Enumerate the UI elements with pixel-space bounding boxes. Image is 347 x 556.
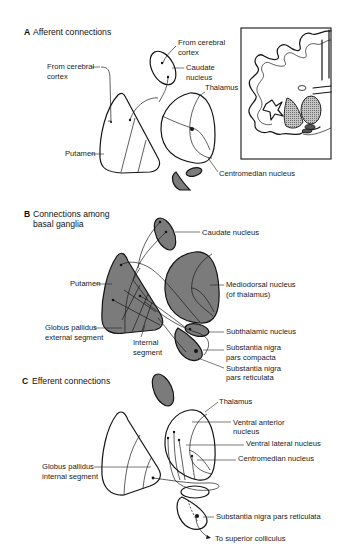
mediodorsal-nucleus [165, 252, 219, 323]
label-sn-compacta-2: pars compacta [226, 353, 277, 362]
label-sn-reticulata-c: Substantia nigra pars reticulata [216, 512, 321, 521]
label-from-cortex-left: From cerebral [47, 62, 95, 71]
caudate-c [148, 371, 178, 409]
label-gp-external: Globus pallidus [45, 323, 97, 332]
label-putamen-b: Putamen [70, 279, 100, 288]
label-from-cortex-left-2: cortex [47, 72, 68, 81]
panel-c-title: Efferent connections [32, 376, 110, 386]
label-internal-segment-2: segment [133, 348, 163, 357]
label-thalamus-a: Thalamus [205, 83, 239, 92]
label-mediodorsal-2: (of thalamus) [226, 290, 271, 299]
panel-a-letter: A [24, 27, 30, 37]
label-caudate-a: Caudate [186, 63, 215, 72]
panel-b-title: Connections among [33, 209, 110, 219]
label-from-cortex-top-2: cortex [178, 48, 199, 57]
label-sn-reticulata-b-2: pars reticulata [226, 373, 274, 382]
label-sn-compacta: Substantia nigra [226, 343, 282, 352]
panel-b: B Connections among basal ganglia Ca [24, 209, 296, 382]
label-ventral-lateral: Ventral lateral nucleus [246, 439, 321, 448]
label-centromedian-a: Centromedian nucleus [219, 169, 295, 178]
panel-a-title: Afferent connections [33, 27, 111, 37]
label-gp-internal: Globus pallidus [42, 462, 94, 471]
caudate-b [150, 215, 180, 253]
panel-b-title-2: basal ganglia [33, 219, 84, 229]
putamen-a [100, 93, 160, 173]
label-ventral-anterior-2: nucleus [233, 427, 259, 436]
label-gp-external-2: external segment [45, 333, 104, 342]
label-internal-segment: Internal [133, 338, 159, 347]
panel-a: A Afferent connections From cerebral cor… [24, 27, 331, 190]
basal-ganglia-figure: A Afferent connections From cerebral cor… [0, 0, 347, 556]
panel-b-letter: B [24, 209, 30, 219]
label-sn-reticulata-b: Substantia nigra [226, 364, 282, 373]
panel-c-letter: C [22, 376, 28, 386]
label-from-cortex-top: From cerebral [178, 38, 226, 47]
thalamus-a [161, 93, 215, 163]
figure-canvas: A Afferent connections From cerebral cor… [0, 0, 347, 556]
label-subthalamic: Subthalamic nucleus [226, 327, 296, 336]
coronal-section-inset [241, 28, 331, 159]
label-thalamus-c: Thalamus [219, 397, 253, 406]
label-ventral-anterior: Ventral anterior [233, 418, 285, 427]
label-centromedian-c: Centromedian nucleus [238, 454, 314, 463]
label-mediodorsal: Mediodorsal nucleus [226, 280, 296, 289]
label-gp-internal-2: internal segment [42, 472, 99, 481]
panel-c: C Efferent connections Thalamus Vent [22, 371, 321, 543]
label-caudate-a-2: nucleus [186, 73, 212, 82]
label-superior-colliculus: To superior colliculus [215, 534, 286, 543]
label-caudate-b: Caudate nucleus [202, 228, 259, 237]
label-putamen-a: Putamen [65, 149, 95, 158]
